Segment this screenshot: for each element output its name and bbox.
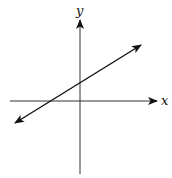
graphed-line-lower	[15, 84, 78, 123]
graphed-line	[78, 45, 141, 84]
coordinate-plane: y x	[0, 0, 172, 178]
y-axis-label: y	[75, 3, 84, 18]
x-axis-label: x	[161, 93, 169, 108]
